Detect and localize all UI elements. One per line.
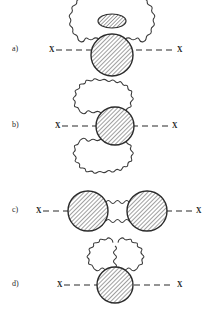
panel-a-main-blob bbox=[91, 34, 133, 76]
panel-c-graphics bbox=[43, 191, 193, 231]
panel-b-photon-upper bbox=[73, 79, 133, 114]
panel-a-left-vertex-label: X bbox=[49, 46, 54, 54]
panel-a-graphics bbox=[56, 0, 174, 76]
panel-d-photon-right bbox=[117, 238, 144, 271]
panel-label-a: a) bbox=[12, 45, 18, 53]
panel-c-left-vertex-label: X bbox=[36, 207, 41, 215]
panel-a-photon-right bbox=[125, 0, 155, 42]
feynman-diagram-figure: a) b) c) d) X X X X X X X X bbox=[0, 0, 211, 309]
panel-d-right-vertex-label: X bbox=[177, 281, 182, 289]
panel-b-graphics bbox=[62, 79, 169, 174]
panel-label-b: b) bbox=[12, 121, 19, 129]
panel-label-d: d) bbox=[12, 280, 19, 288]
panel-c-right-blob bbox=[127, 191, 167, 231]
panel-a-secondary-blob bbox=[98, 14, 126, 28]
panel-b-main-blob bbox=[96, 107, 134, 145]
panel-a-right-vertex-label: X bbox=[177, 46, 182, 54]
panel-label-c: c) bbox=[12, 206, 18, 214]
panel-d-left-vertex-label: X bbox=[57, 281, 62, 289]
panel-b-right-vertex-label: X bbox=[172, 122, 177, 130]
panel-a-photon-left bbox=[69, 0, 99, 42]
panel-b-photon-lower bbox=[73, 138, 133, 173]
panel-c-right-vertex-label: X bbox=[196, 207, 201, 215]
panel-c-left-blob bbox=[68, 191, 108, 231]
panel-b-left-vertex-label: X bbox=[55, 122, 60, 130]
panel-d-graphics bbox=[64, 238, 174, 303]
panel-d-main-blob bbox=[97, 267, 133, 303]
panel-d-photon-left bbox=[87, 238, 114, 271]
